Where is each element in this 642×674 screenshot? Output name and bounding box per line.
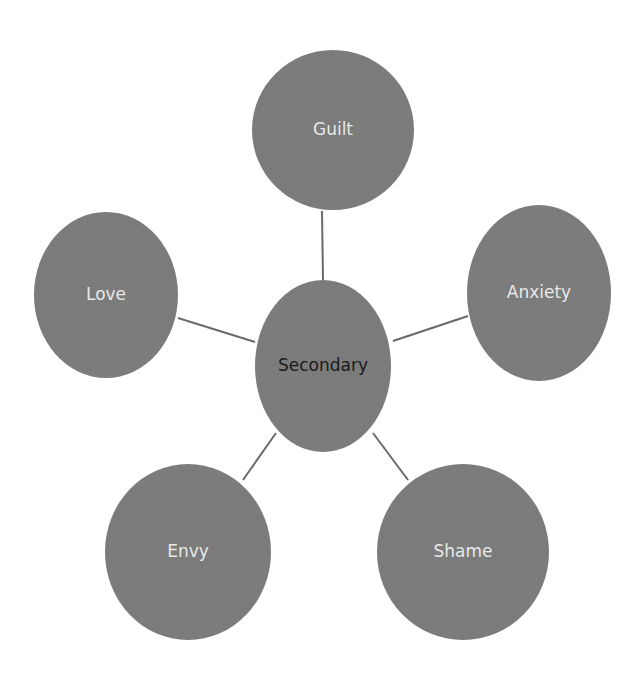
connector-secondary-guilt — [322, 211, 323, 280]
envy-label: Envy — [167, 541, 209, 561]
node-love: Love — [34, 212, 178, 378]
guilt-label: Guilt — [313, 119, 353, 139]
love-label: Love — [86, 284, 126, 304]
connector-secondary-anxiety — [393, 316, 468, 341]
node-envy: Envy — [105, 464, 271, 640]
anxiety-label: Anxiety — [507, 282, 571, 302]
center-node-secondary: Secondary — [255, 280, 391, 452]
node-guilt: Guilt — [252, 50, 414, 210]
node-anxiety: Anxiety — [467, 205, 611, 381]
connector-secondary-envy — [243, 433, 276, 480]
node-shame: Shame — [377, 464, 549, 640]
connector-secondary-love — [178, 318, 255, 342]
emotion-diagram: GuiltAnxietyShameEnvyLove Secondary — [0, 0, 642, 674]
center-node-group: Secondary — [255, 280, 391, 452]
secondary-label: Secondary — [278, 355, 368, 375]
shame-label: Shame — [433, 541, 492, 561]
connector-secondary-shame — [373, 433, 408, 480]
